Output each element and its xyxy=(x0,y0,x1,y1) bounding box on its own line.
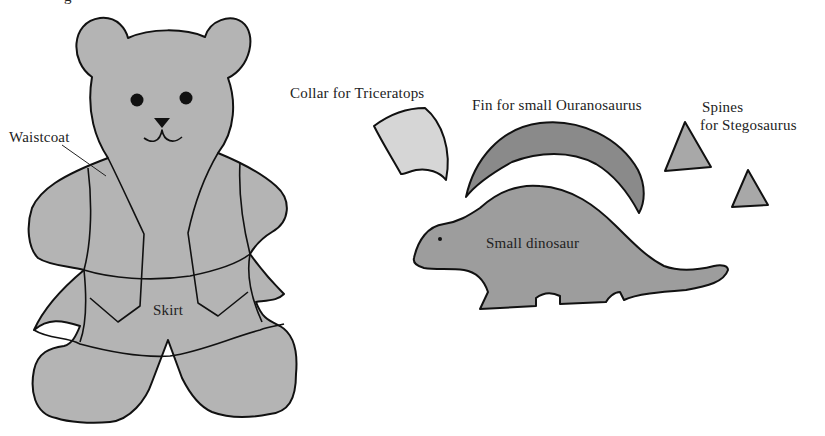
dinosaur-eye xyxy=(438,237,442,241)
spines-label-line2: for Stegosaurus xyxy=(700,117,797,134)
cut-off-text: g xyxy=(64,0,72,5)
dinosaur-label: Small dinosaur xyxy=(486,235,579,252)
collar-label: Collar for Triceratops xyxy=(290,85,424,102)
skirt-label: Skirt xyxy=(153,302,183,319)
bear-left-eye xyxy=(131,94,144,107)
spines-label-line1: Spines xyxy=(702,99,743,116)
collar-template xyxy=(374,108,448,180)
waistcoat-label: Waistcoat xyxy=(9,129,70,146)
bear-right-eye xyxy=(180,92,193,105)
fin-label: Fin for small Ouranosaurus xyxy=(472,97,642,114)
teddy-bear-template xyxy=(29,18,297,423)
bear-silhouette xyxy=(29,18,297,423)
spine-template-small xyxy=(732,170,768,207)
templates-illustration xyxy=(0,0,825,436)
